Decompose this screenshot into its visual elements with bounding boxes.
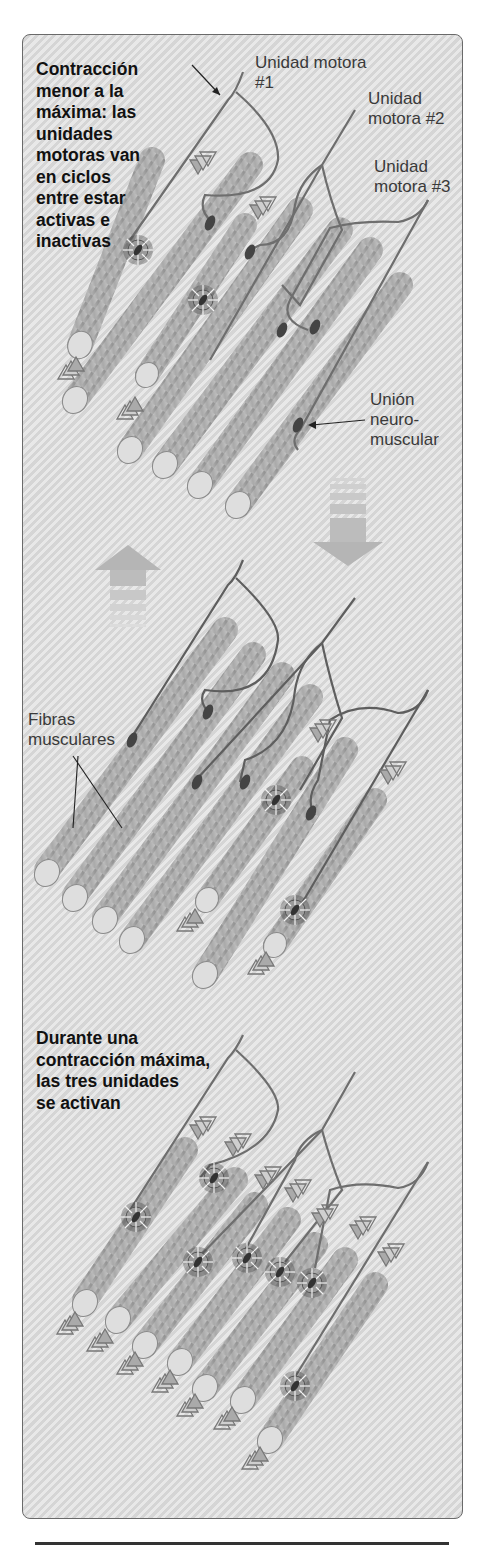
signal-chevron-icon bbox=[378, 1244, 404, 1266]
signal-chevron-icon bbox=[255, 1167, 281, 1189]
activation-burst-icon bbox=[232, 1243, 262, 1273]
signal-chevron-icon bbox=[225, 1134, 251, 1156]
signal-chevron-icon bbox=[87, 1329, 113, 1351]
activation-burst-icon bbox=[188, 285, 218, 315]
top-caption: Contracción menor a la máxima: las unida… bbox=[36, 59, 140, 253]
pointer-line bbox=[312, 420, 365, 425]
label-motor-unit-3: Unidad motora #3 bbox=[374, 157, 451, 197]
middle-illustration bbox=[30, 560, 428, 993]
down-arrow-icon bbox=[313, 478, 383, 566]
label-motor-unit-1: Unidad motora #1 bbox=[255, 53, 367, 93]
label-neuromuscular-junction: Unión neuro- muscular bbox=[370, 390, 439, 450]
activation-burst-icon bbox=[199, 1163, 229, 1193]
signal-chevron-icon bbox=[190, 152, 216, 174]
label-motor-unit-2: Unidad motora #2 bbox=[368, 89, 445, 129]
signal-chevron-icon bbox=[350, 1217, 376, 1239]
activation-burst-icon bbox=[280, 1371, 310, 1401]
activation-burst-icon bbox=[265, 1257, 295, 1287]
activation-burst-icon bbox=[261, 785, 291, 815]
activation-burst-icon bbox=[183, 1247, 213, 1277]
signal-chevron-icon bbox=[285, 1180, 311, 1202]
signal-chevron-icon bbox=[250, 197, 276, 219]
label-muscle-fibers: Fibras musculares bbox=[28, 710, 115, 750]
up-arrow-icon bbox=[95, 545, 161, 627]
activation-burst-icon bbox=[121, 1202, 151, 1232]
signal-chevron-icon bbox=[190, 1117, 216, 1139]
bottom-rule bbox=[35, 1542, 449, 1545]
signal-chevron-icon bbox=[310, 720, 336, 742]
activation-burst-icon bbox=[280, 895, 310, 925]
activation-burst-icon bbox=[297, 1268, 327, 1298]
bottom-caption: Durante una contracción máxima, las tres… bbox=[36, 1028, 210, 1114]
signal-chevron-icon bbox=[177, 909, 203, 931]
